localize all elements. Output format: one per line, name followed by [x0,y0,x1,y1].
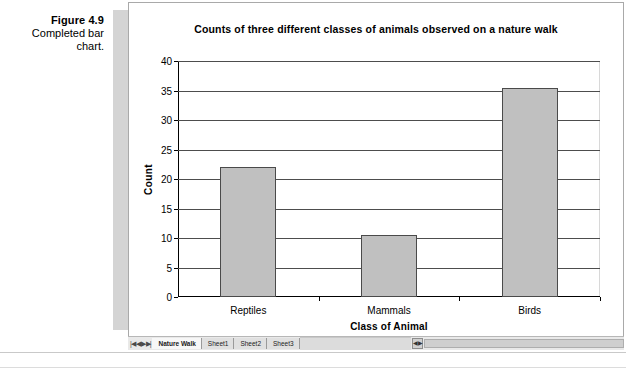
y-axis-tick-label: 25 [142,144,172,155]
y-axis-tick-label: 30 [142,115,172,126]
margin-divider-strip [113,10,128,330]
sheet-tab-sheet2[interactable]: Sheet2 [234,338,267,349]
horizontal-scrollbar[interactable] [424,339,624,348]
x-axis-label-mammals: Mammals [329,305,449,316]
tab-scroll-arrows-icon[interactable]: |◀ ◀ ▶ ▶| [128,340,152,348]
x-axis-label-birds: Birds [470,305,590,316]
y-axis-tick-label: 0 [142,292,172,303]
y-axis-tick-mark [174,268,178,269]
sheet-tab-sheet1[interactable]: Sheet1 [202,338,235,349]
x-axis-tick-mark [600,297,601,301]
excel-chart-object[interactable]: Counts of three different classes of ani… [128,2,624,350]
figure-number: Figure 4.9 [8,14,104,27]
y-axis-tick-label: 40 [142,56,172,67]
y-axis-tick-mark [174,61,178,62]
bar-mammals[interactable] [361,235,417,297]
y-axis-tick-mark [174,297,178,298]
y-axis-tick-label: 20 [142,174,172,185]
tab-splitter-handle[interactable]: ◀▶ [412,338,423,349]
bar-reptiles[interactable] [220,167,276,297]
y-axis-tick-label: 15 [142,203,172,214]
tab-bar-filler [300,337,411,351]
x-axis-tick-mark [459,297,460,301]
chart-title: Counts of three different classes of ani… [129,23,623,35]
page-rule-lower [0,367,626,368]
sheet-tab-nature-walk[interactable]: Nature Walk [152,338,201,349]
y-axis-tick-label: 5 [142,262,172,273]
y-axis-tick-mark [174,150,178,151]
y-axis-tick-mark [174,91,178,92]
sheet-tab-list[interactable]: Nature WalkSheet1Sheet2Sheet3 [152,338,299,349]
sheet-tab-bar[interactable]: |◀ ◀ ▶ ▶| Nature WalkSheet1Sheet2Sheet3 … [128,336,624,350]
gridline [178,61,600,62]
bar-birds[interactable] [502,88,558,297]
y-axis-tick-mark [174,238,178,239]
y-axis-tick-mark [174,209,178,210]
x-axis-label-reptiles: Reptiles [188,305,308,316]
y-axis-tick-label: 35 [142,85,172,96]
figure-caption: Figure 4.9 Completed bar chart. [8,14,104,53]
y-axis-tick-label: 10 [142,233,172,244]
y-axis-tick-mark [174,120,178,121]
plot-wrapper: 4035302520151050 ReptilesMammalsBirds [178,61,600,297]
x-axis-title: Class of Animal [178,321,600,332]
y-axis-tick-mark [174,179,178,180]
sheet-tab-sheet3[interactable]: Sheet3 [267,338,300,349]
cut-off-body-text [0,371,626,377]
x-axis-tick-mark [319,297,320,301]
page-rule-upper [0,352,626,353]
figure-description: Completed bar chart. [8,27,104,53]
